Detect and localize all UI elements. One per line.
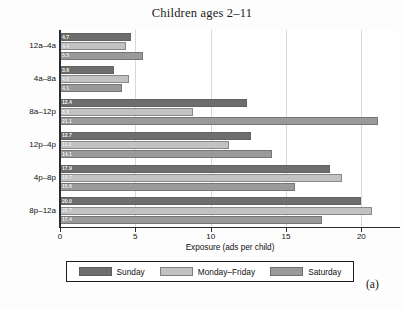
category-axis-labels: 12a–4a4a–8a8a–12p12p–4p4p–8p8p–12a	[0, 30, 56, 227]
chart-legend: SundayMonday–FridaySaturday	[66, 261, 354, 282]
legend-item[interactable]: Sunday	[79, 267, 145, 277]
legend-item[interactable]: Monday–Friday	[160, 267, 255, 277]
bar-row: 4.4	[60, 42, 399, 50]
bar-group: 12.711.214.1	[60, 132, 399, 158]
bar[interactable]	[60, 132, 251, 140]
tick-label: 20	[357, 232, 366, 241]
bar-value-label: 8.8	[62, 108, 69, 116]
bar[interactable]	[60, 207, 372, 215]
category-label: 12a–4a	[0, 41, 56, 50]
bar[interactable]	[60, 183, 295, 191]
plot-area: 4.74.45.53.64.64.112.48.821.112.711.214.…	[60, 30, 399, 227]
bar-group: 3.64.64.1	[60, 66, 399, 92]
bar-row: 11.2	[60, 141, 399, 149]
bar-row: 20.7	[60, 207, 399, 215]
bar-group: 4.74.45.5	[60, 33, 399, 59]
bar-value-label: 4.4	[62, 42, 69, 50]
bar-row: 4.7	[60, 33, 399, 41]
bar[interactable]	[60, 141, 229, 149]
panel-tag: (a)	[366, 278, 379, 290]
bar-value-label: 11.2	[62, 140, 71, 148]
bar-row: 12.7	[60, 132, 399, 140]
bar-row: 12.4	[60, 99, 399, 107]
bar[interactable]	[60, 117, 378, 125]
category-label: 8a–12p	[0, 107, 56, 116]
category-label: 12p–4p	[0, 140, 56, 149]
bar-row: 8.8	[60, 108, 399, 116]
bar-value-label: 4.1	[62, 84, 69, 92]
bar-group: 17.918.715.6	[60, 165, 399, 191]
bar-row: 15.6	[60, 183, 399, 191]
legend-label: Sunday	[117, 267, 145, 277]
legend-swatch	[160, 267, 193, 276]
legend-label: Monday–Friday	[198, 267, 255, 277]
y-axis-line	[59, 30, 61, 228]
bar[interactable]	[60, 216, 322, 224]
bar-value-label: 20.7	[62, 206, 72, 214]
category-label: 4p–8p	[0, 173, 56, 182]
x-axis-ticks: 05101520	[60, 228, 400, 244]
bar-value-label: 4.6	[62, 75, 69, 83]
bar-row: 17.4	[60, 216, 399, 224]
tick-label: 0	[58, 232, 62, 241]
legend-swatch	[270, 267, 303, 276]
category-label: 8p–12a	[0, 206, 56, 215]
bar-group: 20.020.717.4	[60, 197, 399, 223]
bar-value-label: 12.4	[62, 98, 72, 106]
chart-title: Children ages 2–11	[0, 6, 404, 21]
bar-value-label: 4.7	[62, 33, 69, 41]
bar-row: 18.7	[60, 174, 399, 182]
bar-row: 5.5	[60, 52, 399, 60]
bar-row: 21.1	[60, 117, 399, 125]
bar-row: 17.9	[60, 165, 399, 173]
bar-value-label: 5.5	[62, 51, 69, 59]
bar-row: 4.6	[60, 75, 399, 83]
bar-row: 4.1	[60, 84, 399, 92]
bar[interactable]	[60, 75, 129, 83]
bar[interactable]	[60, 174, 342, 182]
bar[interactable]	[60, 165, 330, 173]
bar-value-label: 21.1	[62, 117, 72, 125]
legend-item[interactable]: Saturday	[270, 267, 341, 277]
bar-value-label: 14.1	[62, 150, 72, 158]
bar-row: 20.0	[60, 197, 399, 205]
x-axis-title: Exposure (ads per child)	[60, 243, 400, 252]
bar[interactable]	[60, 42, 126, 50]
bar-group: 12.48.821.1	[60, 99, 399, 125]
bar[interactable]	[60, 108, 193, 116]
bar[interactable]	[60, 84, 122, 92]
bar-value-label: 3.6	[62, 66, 69, 74]
category-label: 4a–8a	[0, 74, 56, 83]
bar-value-label: 18.7	[62, 173, 72, 181]
bar[interactable]	[60, 99, 247, 107]
bar-row: 14.1	[60, 150, 399, 158]
figure-panel: Children ages 2–11 4.74.45.53.64.64.112.…	[0, 0, 404, 309]
bar-value-label: 17.4	[62, 215, 72, 223]
legend-swatch	[79, 267, 112, 276]
bar-value-label: 12.7	[62, 131, 72, 139]
legend-label: Saturday	[308, 267, 341, 277]
bar-row: 3.6	[60, 66, 399, 74]
bar[interactable]	[60, 33, 131, 41]
bar[interactable]	[60, 197, 361, 205]
bar[interactable]	[60, 52, 143, 60]
bar-value-label: 15.6	[62, 182, 72, 190]
tick-label: 5	[133, 232, 137, 241]
bar-value-label: 20.0	[62, 197, 72, 205]
tick-label: 10	[206, 232, 215, 241]
bar-value-label: 17.9	[62, 164, 72, 172]
tick-label: 15	[282, 232, 291, 241]
bar[interactable]	[60, 150, 272, 158]
